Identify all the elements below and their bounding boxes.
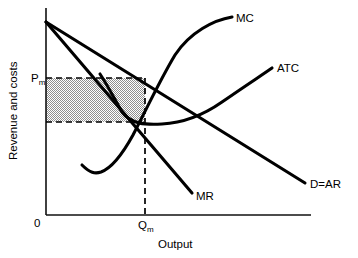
quantity-tick-letter: Q [138,219,147,231]
quantity-tick-label: Qm [138,219,154,234]
mr-curve-label: MR [196,190,214,202]
monopoly-profit-rectangle [46,78,145,122]
price-tick-subscript: m [39,78,46,87]
x-axis-label: Output [158,238,193,250]
price-tick-label: Pm [31,72,46,87]
atc-curve-label: ATC [277,62,299,74]
demand-curve-label: D=AR [310,178,341,190]
quantity-tick-subscript: m [147,225,154,234]
origin-label: 0 [34,217,40,229]
mc-curve-label: MC [236,12,254,24]
y-axis-label: Revenue and costs [7,61,19,160]
monopoly-diagram-figure: Revenue and costs Output 0 Pm Qm MC ATC … [0,0,358,258]
chart-svg: Revenue and costs Output 0 Pm Qm MC ATC … [0,0,358,258]
